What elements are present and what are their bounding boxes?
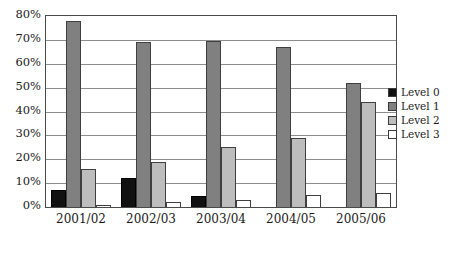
bar-group xyxy=(186,16,256,207)
bar-2002-03-level-2 xyxy=(151,162,166,207)
legend-swatch-icon xyxy=(388,102,397,111)
legend-item: Level 0 xyxy=(388,86,466,99)
x-tick-label: 2005/06 xyxy=(326,212,396,226)
bar-2002-03-level-0 xyxy=(121,178,136,207)
y-tick-label: 80% xyxy=(1,9,41,21)
bar-2005-06-level-2 xyxy=(361,102,376,207)
bar-2003-04-level-2 xyxy=(221,147,236,207)
bar-2005-06-level-1 xyxy=(346,83,361,207)
legend-swatch-icon xyxy=(388,116,397,125)
x-axis: 2001/022002/032003/042004/052005/06 xyxy=(46,212,396,226)
legend-label: Level 3 xyxy=(401,129,440,140)
bar-2003-04-level-0 xyxy=(191,196,206,207)
x-tick-label: 2002/03 xyxy=(116,212,186,226)
bar-chart: 80%70%60%50%40%30%20%10%0% 2001/022002/0… xyxy=(0,0,469,253)
y-tick-label: 30% xyxy=(1,128,41,140)
y-tick-label: 40% xyxy=(1,105,41,117)
bar-2005-06-level-3 xyxy=(376,193,391,207)
y-tick-label: 20% xyxy=(1,152,41,164)
y-tick-label: 60% xyxy=(1,57,41,69)
bar-group xyxy=(326,16,396,207)
legend-label: Level 1 xyxy=(401,101,440,112)
legend-item: Level 1 xyxy=(388,100,466,113)
bar-2003-04-level-1 xyxy=(206,41,221,207)
y-tick-label: 70% xyxy=(1,33,41,45)
bar-2002-03-level-3 xyxy=(166,202,181,207)
x-tick-label: 2004/05 xyxy=(256,212,326,226)
y-axis: 80%70%60%50%40%30%20%10%0% xyxy=(0,15,41,208)
legend-item: Level 2 xyxy=(388,114,466,127)
legend-swatch-icon xyxy=(388,130,397,139)
y-tick-label: 50% xyxy=(1,81,41,93)
bar-2004-05-level-2 xyxy=(291,138,306,207)
legend-swatch-icon xyxy=(388,88,397,97)
bar-2001-02-level-2 xyxy=(81,169,96,207)
chart-legend: Level 0Level 1Level 2Level 3 xyxy=(388,86,466,142)
bar-group xyxy=(46,16,116,207)
legend-item: Level 3 xyxy=(388,128,466,141)
bar-groups xyxy=(46,16,396,207)
x-tick-label: 2003/04 xyxy=(186,212,256,226)
x-tick-label: 2001/02 xyxy=(46,212,116,226)
bar-2004-05-level-3 xyxy=(306,195,321,207)
bar-2001-02-level-0 xyxy=(51,190,66,207)
bar-group xyxy=(116,16,186,207)
legend-label: Level 0 xyxy=(401,87,440,98)
bar-2003-04-level-3 xyxy=(236,200,251,207)
bar-2001-02-level-3 xyxy=(96,205,111,207)
y-tick-label: 10% xyxy=(1,176,41,188)
bar-group xyxy=(256,16,326,207)
y-tick-label: 0% xyxy=(1,200,41,212)
bar-2002-03-level-1 xyxy=(136,42,151,207)
bar-2001-02-level-1 xyxy=(66,21,81,207)
bar-2004-05-level-1 xyxy=(276,47,291,207)
legend-label: Level 2 xyxy=(401,115,440,126)
